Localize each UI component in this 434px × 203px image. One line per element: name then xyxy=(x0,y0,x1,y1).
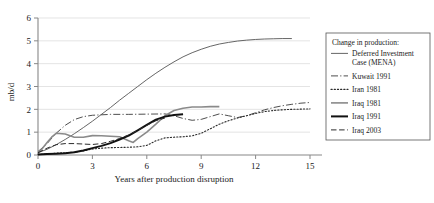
y-tick-label: 4 xyxy=(27,59,32,69)
y-tick-label: 1 xyxy=(27,127,32,137)
x-axis-title: Years after production disruption xyxy=(115,174,234,184)
y-tick-label: 3 xyxy=(27,82,32,92)
series-line xyxy=(38,39,292,153)
legend-item-label: Iraq 2003 xyxy=(352,126,381,135)
legend-item-label: Case (MENA) xyxy=(352,58,396,67)
x-tick-label: 12 xyxy=(251,161,260,171)
x-axis-ticks: 03691215 xyxy=(36,155,315,171)
y-tick-label: 6 xyxy=(27,13,32,23)
legend-item-label: Iran 1981 xyxy=(352,85,381,94)
legend: Change in production:Deferred Investment… xyxy=(326,33,430,140)
x-tick-label: 6 xyxy=(145,161,150,171)
x-tick-label: 9 xyxy=(199,161,204,171)
x-tick-label: 3 xyxy=(90,161,95,171)
legend-item-label: Kuwait 1991 xyxy=(352,72,391,81)
y-axis-ticks: 0123456 xyxy=(27,13,39,160)
legend-item-label: Iraq 1981 xyxy=(352,99,381,108)
series-line xyxy=(38,107,219,154)
x-tick-label: 15 xyxy=(306,161,316,171)
series-line xyxy=(38,114,183,154)
legend-title: Change in production: xyxy=(332,38,399,47)
y-tick-label: 2 xyxy=(27,105,32,115)
y-tick-label: 0 xyxy=(27,150,32,160)
line-chart: 0123456 03691215 mb/d Years after produc… xyxy=(0,0,434,203)
y-tick-label: 5 xyxy=(27,36,32,46)
x-tick-label: 0 xyxy=(36,161,41,171)
chart-canvas: 0123456 03691215 mb/d Years after produc… xyxy=(0,0,434,203)
y-axis-title: mb/d xyxy=(6,82,16,101)
data-series-group xyxy=(38,39,310,155)
legend-item-label: Deferred Investment xyxy=(352,49,415,58)
legend-item-label: Iraq 1991 xyxy=(352,112,381,121)
